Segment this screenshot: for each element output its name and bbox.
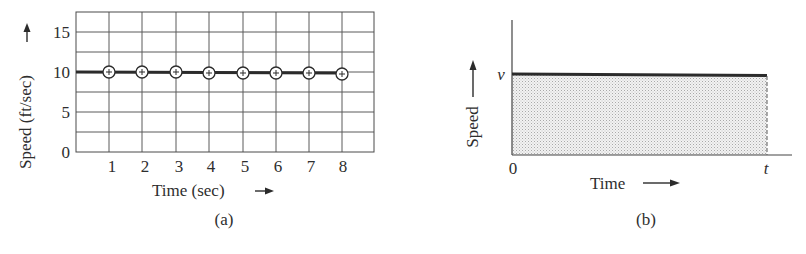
chart-b-y-axis-label: Speed [463,106,482,148]
x-tick-label: 5 [241,157,250,176]
data-point-marker [203,67,215,79]
data-point-marker [237,67,249,79]
x-axis-arrow-icon [255,188,274,195]
x-tick-label: 3 [175,157,184,176]
data-point-marker [170,66,182,78]
chart-b-area-fill [512,74,767,155]
chart-a: 0 5 10 15 1 2 3 4 5 6 7 8 Time (sec) Spe… [16,12,374,229]
chart-b-v-label: v [497,65,505,84]
chart-a-x-axis-label: Time (sec) [152,181,225,200]
y-tick-label: 10 [53,63,70,82]
y-tick-label: 15 [53,23,70,42]
chart-a-x-ticks: 1 2 3 4 5 6 7 8 [108,157,348,176]
chart-b-caption: (b) [636,210,656,229]
y-axis-arrow-icon [470,60,477,97]
figure-canvas: 0 5 10 15 1 2 3 4 5 6 7 8 Time (sec) Spe… [0,0,806,254]
data-point-marker [270,67,282,79]
data-point-marker [303,67,315,79]
x-tick-label: 4 [207,157,216,176]
chart-b-speed-line [512,74,767,76]
chart-a-y-ticks: 0 5 10 15 [53,23,70,162]
x-axis-arrow-icon [643,180,680,187]
y-tick-label: 5 [62,103,71,122]
chart-b-x-axis-label: Time [590,174,625,193]
data-point-marker [103,66,115,78]
x-tick-label: 6 [274,157,283,176]
y-tick-label: 0 [62,143,71,162]
y-axis-arrow-icon [24,23,31,42]
data-point-marker [136,66,148,78]
x-tick-label: 8 [339,157,348,176]
chart-b: v 0 t Time Speed (b) [463,20,792,229]
x-tick-label: 2 [141,157,150,176]
chart-b-t-label: t [764,159,770,178]
chart-a-y-axis-label: Speed (ft/sec) [16,75,35,169]
x-tick-label: 7 [307,157,316,176]
chart-a-grid [76,12,374,152]
chart-a-caption: (a) [215,210,234,229]
data-point-marker [336,68,348,80]
x-tick-label: 1 [108,157,117,176]
chart-b-origin-label: 0 [509,159,518,178]
